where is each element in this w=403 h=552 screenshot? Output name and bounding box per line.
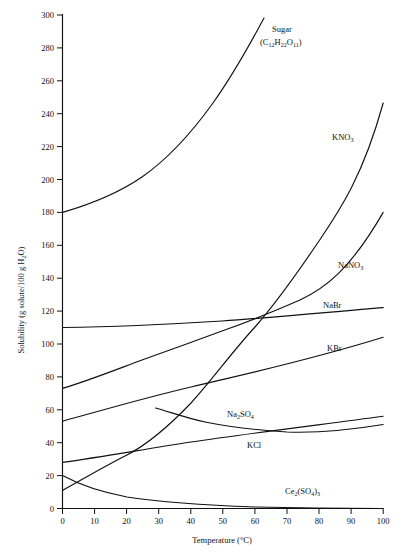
series-curves <box>63 18 384 509</box>
y-axis-title-text: Solubility (g solute/100 g H <box>16 259 26 354</box>
curve-nabr <box>63 308 384 328</box>
curve-sugar <box>63 18 265 212</box>
y-tick-label: 300 <box>41 10 54 20</box>
y-tick-label: 80 <box>46 372 55 382</box>
y-tick-label: 60 <box>46 405 55 415</box>
kbr-label: KBr <box>327 343 342 353</box>
ce2so43-label: Ce2(SO4)3 <box>285 486 320 497</box>
sugar-formula-label: (C12H22O11) <box>260 37 302 48</box>
y-tick-label: 0 <box>50 504 54 514</box>
x-tick-label: 20 <box>122 516 131 526</box>
x-tick-label: 80 <box>315 516 324 526</box>
y-tick-label: 20 <box>46 471 55 481</box>
x-tick-label: 0 <box>60 516 64 526</box>
y-tick-label: 100 <box>41 339 54 349</box>
series-labels: Sugar (C12H22O11) KNO3 NaNO3 NaBr KBr Na… <box>227 24 363 497</box>
x-tick-label: 10 <box>90 516 99 526</box>
x-tick-label: 90 <box>347 516 356 526</box>
curve-kno3 <box>63 103 384 490</box>
x-axis-ticks: 0 10 20 30 40 50 60 70 80 90 100 <box>60 509 389 527</box>
x-tick-label: 50 <box>219 516 228 526</box>
y-tick-label: 260 <box>41 76 54 86</box>
chart-canvas: 0 20 40 60 80 100 120 140 160 180 200 22… <box>0 0 403 552</box>
x-tick-label: 60 <box>251 516 260 526</box>
y-tick-label: 180 <box>41 207 54 217</box>
y-axis-ticks: 0 20 40 60 80 100 120 140 160 180 200 22… <box>41 10 62 514</box>
nabr-label: NaBr <box>323 300 342 310</box>
y-tick-label: 140 <box>41 273 54 283</box>
y-tick-label: 40 <box>46 438 55 448</box>
y-tick-label: 240 <box>41 109 54 119</box>
curve-ce2so43 <box>63 476 384 509</box>
nano3-label: NaNO3 <box>338 260 363 271</box>
curve-kcl <box>63 416 384 462</box>
x-tick-label: 40 <box>187 516 196 526</box>
kno3-label: KNO3 <box>332 132 353 143</box>
x-tick-label: 70 <box>283 516 292 526</box>
y-tick-label: 220 <box>41 142 54 152</box>
sugar-label: Sugar <box>272 24 292 34</box>
curve-na2so4 <box>156 408 384 432</box>
y-tick-label: 200 <box>41 175 54 185</box>
solubility-chart: 0 20 40 60 80 100 120 140 160 180 200 22… <box>0 0 403 552</box>
x-tick-label: 30 <box>154 516 163 526</box>
kcl-label: KCl <box>247 440 262 450</box>
y-tick-label: 280 <box>41 43 54 53</box>
x-axis-title: Temperature (°C) <box>192 535 252 545</box>
na2so4-label: Na2SO4 <box>227 409 254 420</box>
x-tick-label: 100 <box>377 516 390 526</box>
y-axis-title: Solubility (g solute/100 g H2O) <box>16 246 27 353</box>
y-tick-label: 120 <box>41 306 54 316</box>
y-tick-label: 160 <box>41 240 54 250</box>
y-axis-title-tail: O) <box>16 246 26 255</box>
